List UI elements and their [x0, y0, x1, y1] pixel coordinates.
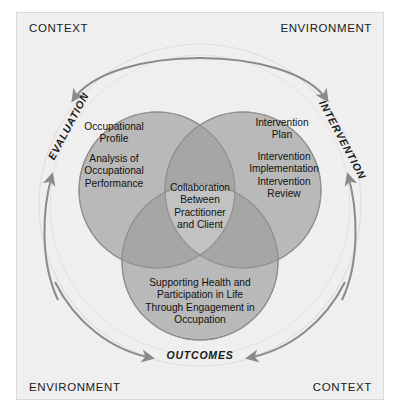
evaluation-circle-text-primary: Occupational Profile [62, 121, 166, 146]
corner-label-top-right: ENVIRONMENT [280, 22, 372, 34]
phase-label-outcomes: OUTCOMES [160, 349, 240, 361]
diagram-canvas: CONTEXT ENVIRONMENT ENVIRONMENT CONTEXT … [0, 0, 400, 415]
outcomes-circle-text: Supporting Health and Participation in L… [112, 277, 288, 327]
corner-label-bottom-right: CONTEXT [313, 381, 372, 393]
collaboration-overlap-text: Collaboration Between Practitioner and C… [146, 182, 254, 232]
corner-label-top-left: CONTEXT [29, 22, 88, 34]
intervention-circle-text-primary: Intervention Plan [232, 117, 332, 142]
corner-label-bottom-left: ENVIRONMENT [29, 381, 121, 393]
